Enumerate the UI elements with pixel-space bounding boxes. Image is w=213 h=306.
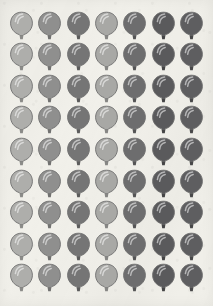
balloon-icon bbox=[66, 169, 91, 199]
balloon-cell-7-5[interactable] bbox=[121, 199, 149, 231]
balloon-cell-4-6[interactable] bbox=[149, 105, 177, 137]
balloon-icon bbox=[37, 74, 62, 104]
balloon-cell-2-2[interactable] bbox=[35, 42, 63, 74]
balloon-cell-5-4[interactable] bbox=[92, 136, 120, 168]
balloon-cell-4-5[interactable] bbox=[121, 105, 149, 137]
balloon-icon bbox=[37, 200, 62, 230]
balloon-icon bbox=[179, 42, 204, 72]
balloon-cell-8-5[interactable] bbox=[121, 231, 149, 263]
balloon-cell-6-4[interactable] bbox=[92, 168, 120, 200]
balloon-icon bbox=[37, 105, 62, 135]
balloon-cell-5-3[interactable] bbox=[64, 136, 92, 168]
balloon-cell-9-1[interactable] bbox=[7, 262, 35, 294]
balloon-cell-1-3[interactable] bbox=[64, 10, 92, 42]
balloon-cell-6-6[interactable] bbox=[149, 168, 177, 200]
balloon-cell-9-7[interactable] bbox=[178, 262, 206, 294]
balloon-cell-4-3[interactable] bbox=[64, 105, 92, 137]
balloon-icon bbox=[66, 42, 91, 72]
balloon-cell-6-7[interactable] bbox=[178, 168, 206, 200]
balloon-cell-8-6[interactable] bbox=[149, 231, 177, 263]
balloon-cell-4-1[interactable] bbox=[7, 105, 35, 137]
balloon-cell-7-2[interactable] bbox=[35, 199, 63, 231]
balloon-cell-5-2[interactable] bbox=[35, 136, 63, 168]
balloon-cell-1-1[interactable] bbox=[7, 10, 35, 42]
balloon-icon bbox=[179, 105, 204, 135]
balloon-icon bbox=[94, 11, 119, 41]
balloon-cell-8-4[interactable] bbox=[92, 231, 120, 263]
balloon-cell-1-7[interactable] bbox=[178, 10, 206, 42]
balloon-cell-6-1[interactable] bbox=[7, 168, 35, 200]
balloon-cell-9-3[interactable] bbox=[64, 262, 92, 294]
balloon-cell-7-6[interactable] bbox=[149, 199, 177, 231]
balloon-cell-3-3[interactable] bbox=[64, 73, 92, 105]
balloon-icon bbox=[122, 263, 147, 293]
balloon-cell-3-4[interactable] bbox=[92, 73, 120, 105]
balloon-cell-4-7[interactable] bbox=[178, 105, 206, 137]
balloon-icon bbox=[151, 232, 176, 262]
balloon-cell-9-5[interactable] bbox=[121, 262, 149, 294]
balloon-cell-7-3[interactable] bbox=[64, 199, 92, 231]
balloon-icon bbox=[179, 169, 204, 199]
balloon-icon bbox=[151, 200, 176, 230]
balloon-cell-7-4[interactable] bbox=[92, 199, 120, 231]
balloon-icon bbox=[94, 232, 119, 262]
balloon-cell-3-6[interactable] bbox=[149, 73, 177, 105]
balloon-icon bbox=[122, 169, 147, 199]
balloon-icon bbox=[37, 232, 62, 262]
balloon-icon bbox=[179, 232, 204, 262]
balloon-cell-6-2[interactable] bbox=[35, 168, 63, 200]
balloon-icon bbox=[122, 42, 147, 72]
balloon-icon bbox=[37, 11, 62, 41]
balloon-icon bbox=[179, 137, 204, 167]
balloon-cell-1-4[interactable] bbox=[92, 10, 120, 42]
balloon-icon bbox=[66, 11, 91, 41]
balloon-cell-2-6[interactable] bbox=[149, 42, 177, 74]
balloon-cell-8-1[interactable] bbox=[7, 231, 35, 263]
balloon-icon bbox=[122, 105, 147, 135]
balloon-cell-9-2[interactable] bbox=[35, 262, 63, 294]
balloon-cell-2-7[interactable] bbox=[178, 42, 206, 74]
balloon-cell-6-5[interactable] bbox=[121, 168, 149, 200]
balloon-cell-4-4[interactable] bbox=[92, 105, 120, 137]
balloon-cell-8-3[interactable] bbox=[64, 231, 92, 263]
balloon-cell-5-7[interactable] bbox=[178, 136, 206, 168]
balloon-icon bbox=[122, 200, 147, 230]
balloon-cell-7-7[interactable] bbox=[178, 199, 206, 231]
balloon-icon bbox=[37, 42, 62, 72]
balloon-cell-2-5[interactable] bbox=[121, 42, 149, 74]
balloon-cell-9-4[interactable] bbox=[92, 262, 120, 294]
balloon-cell-9-6[interactable] bbox=[149, 262, 177, 294]
balloon-icon bbox=[122, 11, 147, 41]
balloon-cell-3-5[interactable] bbox=[121, 73, 149, 105]
balloon-cell-6-3[interactable] bbox=[64, 168, 92, 200]
balloon-icon bbox=[179, 11, 204, 41]
balloon-cell-4-2[interactable] bbox=[35, 105, 63, 137]
balloon-cell-2-3[interactable] bbox=[64, 42, 92, 74]
balloon-cell-3-1[interactable] bbox=[7, 73, 35, 105]
balloon-cell-1-5[interactable] bbox=[121, 10, 149, 42]
balloon-icon bbox=[122, 74, 147, 104]
balloon-cell-7-1[interactable] bbox=[7, 199, 35, 231]
balloon-icon bbox=[66, 105, 91, 135]
balloon-cell-3-2[interactable] bbox=[35, 73, 63, 105]
balloon-icon bbox=[179, 200, 204, 230]
balloon-icon bbox=[94, 263, 119, 293]
balloon-cell-2-4[interactable] bbox=[92, 42, 120, 74]
balloon-cell-8-7[interactable] bbox=[178, 231, 206, 263]
balloon-icon bbox=[37, 169, 62, 199]
balloon-cell-1-2[interactable] bbox=[35, 10, 63, 42]
balloon-icon bbox=[66, 200, 91, 230]
balloon-cell-5-1[interactable] bbox=[7, 136, 35, 168]
balloon-cell-5-6[interactable] bbox=[149, 136, 177, 168]
balloon-cell-5-5[interactable] bbox=[121, 136, 149, 168]
balloon-cell-2-1[interactable] bbox=[7, 42, 35, 74]
balloon-icon bbox=[37, 263, 62, 293]
balloon-icon bbox=[9, 11, 34, 41]
balloon-icon bbox=[9, 74, 34, 104]
balloon-icon bbox=[9, 263, 34, 293]
balloon-cell-8-2[interactable] bbox=[35, 231, 63, 263]
balloon-icon bbox=[122, 137, 147, 167]
balloon-cell-1-6[interactable] bbox=[149, 10, 177, 42]
balloon-cell-3-7[interactable] bbox=[178, 73, 206, 105]
balloon-icon bbox=[151, 11, 176, 41]
